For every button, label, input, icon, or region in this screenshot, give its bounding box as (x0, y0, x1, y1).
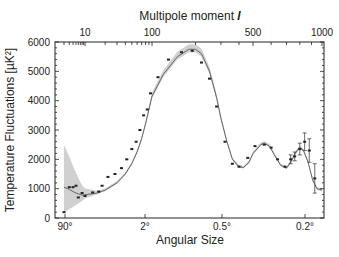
fit-curve (64, 49, 322, 195)
data-point (125, 158, 128, 160)
measurement-points (63, 50, 317, 213)
data-point (101, 185, 104, 187)
y-tick-label: 4000 (28, 95, 51, 106)
y-tick-label: 5000 (28, 66, 51, 77)
cmb-power-spectrum-chart: 0100020003000400050006000 101005001000 9… (0, 0, 339, 257)
band-area (64, 44, 322, 212)
data-point (263, 144, 266, 146)
y-tick-label: 3000 (28, 125, 51, 136)
x-axis-title: Angular Size (156, 233, 224, 247)
data-point (270, 147, 273, 149)
bottom-tick-label: 2° (140, 221, 150, 232)
data-point (237, 166, 240, 168)
top-tick-label: 1000 (311, 27, 334, 38)
y-tick-label: 2000 (28, 154, 51, 165)
y-tick-label: 1000 (28, 183, 51, 194)
data-point (146, 108, 149, 110)
data-point (130, 148, 133, 150)
data-point (253, 145, 256, 147)
bottom-tick-label: 0.5° (213, 221, 231, 232)
top-axis-title: Multipole moment l (139, 9, 241, 23)
data-point (113, 173, 116, 175)
top-tick-label: 100 (144, 27, 161, 38)
data-point (77, 196, 80, 198)
data-point (289, 158, 292, 160)
data-point (84, 195, 87, 197)
y-tick-label: 6000 (28, 37, 51, 48)
data-point (68, 186, 71, 188)
data-point (231, 163, 234, 165)
data-point (72, 186, 75, 188)
bottom-tick-label: 90° (57, 221, 72, 232)
model-fit-line (64, 49, 322, 195)
data-point (138, 129, 141, 131)
data-point (167, 59, 170, 61)
data-point (156, 76, 159, 78)
data-point (284, 166, 287, 168)
data-point (208, 78, 211, 80)
data-point (215, 106, 218, 108)
bottom-tick-label: 0.2° (296, 221, 314, 232)
data-point (120, 167, 123, 169)
data-point (180, 51, 183, 53)
data-point (293, 155, 296, 157)
data-point (97, 191, 100, 193)
data-point (223, 141, 226, 143)
top-tick-label: 10 (79, 27, 91, 38)
data-point (191, 50, 194, 52)
data-point (308, 150, 311, 152)
data-point (200, 62, 203, 64)
data-point (106, 176, 109, 178)
top-tick-label: 500 (245, 27, 262, 38)
data-point (63, 211, 66, 213)
data-point (313, 177, 316, 179)
y-axis-title: Temperature Fluctuations [µK²] (3, 48, 17, 212)
data-point (246, 157, 249, 159)
data-point (276, 158, 279, 160)
data-point (135, 141, 138, 143)
data-point (303, 141, 306, 143)
data-point (149, 92, 152, 94)
top-axis-ticks: 101005001000 (64, 27, 334, 46)
data-point (81, 192, 84, 194)
y-tick-label: 0 (44, 213, 50, 224)
data-point (91, 191, 94, 193)
data-point (142, 114, 145, 116)
bottom-axis-ticks: 90°2°0.5°0.2° (57, 214, 314, 232)
cosmic-variance-band (64, 44, 322, 212)
chart-canvas: 0100020003000400050006000 101005001000 9… (0, 0, 339, 257)
data-point (74, 185, 77, 187)
data-point (298, 148, 301, 150)
